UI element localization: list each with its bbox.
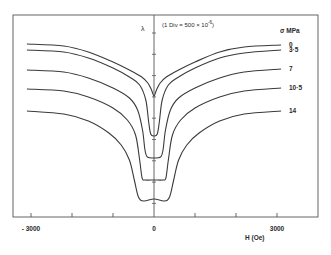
legend-label-sigma-14: 14 <box>289 107 297 114</box>
magnetostriction-chart: - 300003000 03·5710·514 λ (1 Div = 500 ×… <box>0 0 331 255</box>
y-scale-note-text: (1 Div = 500 × 10 <box>162 22 209 28</box>
y-scale-close: ) <box>212 22 214 28</box>
x-tick-label: 3000 <box>270 225 285 232</box>
legend-label-sigma-10.5: 10·5 <box>289 84 302 91</box>
x-tick-label: 0 <box>152 225 156 232</box>
legend-title: σ MPa <box>280 27 300 34</box>
x-tick-label: - 3000 <box>22 225 41 232</box>
x-tick-labels: - 300003000 <box>22 225 285 232</box>
legend-label-sigma-7: 7 <box>289 65 293 72</box>
x-axis-label: H (Oe) <box>245 234 265 242</box>
legend-label-sigma-3.5: 3·5 <box>289 46 299 53</box>
legend: 03·5710·514 <box>289 41 302 114</box>
y-scale-note: (1 Div = 500 × 10-6) <box>162 20 214 28</box>
y-axis-label: λ <box>141 25 145 32</box>
